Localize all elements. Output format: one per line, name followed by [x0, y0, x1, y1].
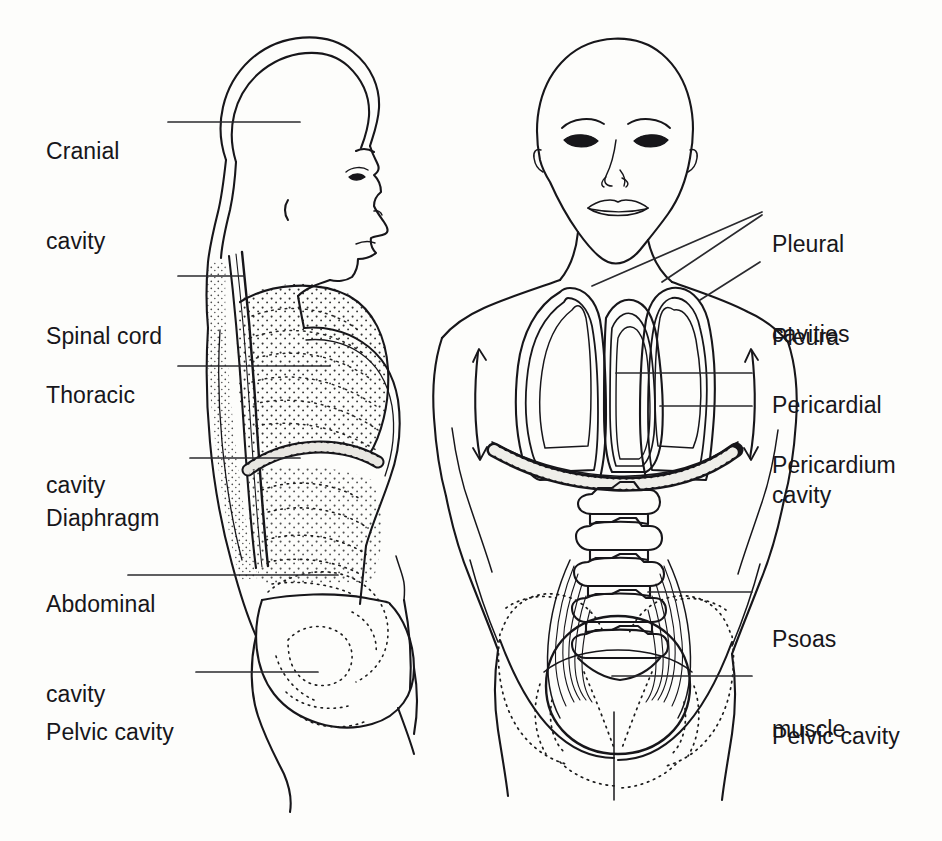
label-cranial-cavity-line2: cavity: [46, 226, 120, 256]
label-pelvic-cavity-left: Pelvic cavity: [46, 657, 174, 807]
psoas-muscle-right: [646, 560, 691, 718]
label-pelvic-cavity-right-line1: Pelvic cavity: [772, 721, 900, 751]
sacrum-dotted: [584, 672, 614, 748]
label-psoas-muscle-line1: Psoas: [772, 624, 845, 654]
thoracic-cavity-fill: [220, 270, 410, 470]
ear-contour: [285, 200, 288, 220]
nose-anterior: [605, 140, 616, 186]
label-thoracic-cavity-line1: Thoracic: [46, 380, 135, 410]
buttock-contour: [252, 636, 291, 812]
skull-outer-contour: [221, 37, 379, 160]
eye-left: [564, 135, 598, 147]
shoulder-left: [442, 280, 560, 338]
eye-lateral: [349, 174, 365, 180]
hip-left: [495, 650, 508, 796]
lateral-view-figure: [205, 37, 417, 812]
psoas-fiber-r1: [664, 566, 683, 706]
breathing-arrow-left: [475, 352, 480, 458]
neck-right-anterior: [648, 240, 672, 282]
anterior-view-figure: [433, 39, 796, 800]
diagram-page: Cranial cavity Spinal cord Thoracic cavi…: [0, 0, 942, 841]
arm-left-outer: [433, 338, 446, 496]
torso-left-wall-inner: [470, 560, 498, 642]
pelvic-brim-line: [262, 594, 390, 604]
anterior-trunk-lower: [404, 600, 411, 690]
pubic-arch-right: [618, 764, 676, 788]
sacrum-dotted-right: [622, 672, 652, 748]
torso-left-wall: [446, 496, 498, 650]
anterior-trunk-edge: [396, 556, 405, 600]
brow-line: [356, 149, 374, 152]
label-pelvic-cavity-right: Pelvic cavity: [772, 661, 900, 811]
cranial-cavity-inner: [232, 53, 369, 162]
face-profile: [330, 146, 388, 281]
pubic-arch-left: [560, 762, 618, 786]
label-pericardium: Pericardium: [772, 390, 896, 540]
mouth-upper-lip: [588, 200, 648, 208]
label-pericardium-line1: Pericardium: [772, 450, 896, 480]
breathing-arrow-left-head: [473, 349, 486, 362]
brow-left: [562, 119, 604, 128]
label-pelvic-cavity-left-line1: Pelvic cavity: [46, 717, 174, 747]
label-abdominal-cavity-line1: Abdominal: [46, 589, 156, 619]
iliac-crest-left: [506, 596, 556, 608]
pelvic-inlet-line: [544, 650, 692, 672]
pleura-inner-right-lung: [648, 298, 707, 472]
abdominal-cavity-fill: [240, 455, 400, 600]
leader-pleural-cavities-a: [592, 212, 762, 286]
label-cranial-cavity-line1: Cranial: [46, 136, 120, 166]
thigh-front-lower: [398, 708, 414, 754]
neck-left-anterior: [560, 232, 578, 280]
thigh-front-contour: [414, 668, 417, 734]
torso-right-wall-inner: [732, 564, 760, 646]
head-outline-anterior: [537, 39, 693, 264]
obturator-left: [551, 700, 565, 752]
pericardial-cavity-space: [616, 327, 650, 459]
pleural-cavity-left-space: [540, 306, 591, 448]
breathing-arrow-right: [750, 352, 755, 458]
eye-right: [634, 135, 668, 147]
mouth-line: [356, 242, 375, 244]
eyelid-line: [346, 168, 368, 172]
leader-pleura: [700, 262, 760, 300]
mouth-line-anterior: [590, 209, 646, 212]
psoas-muscle-left: [548, 560, 593, 718]
label-pleural-cavities-line1: Pleural: [772, 229, 850, 259]
pleura-outer-left-lung: [516, 288, 606, 480]
brow-right: [628, 119, 670, 128]
